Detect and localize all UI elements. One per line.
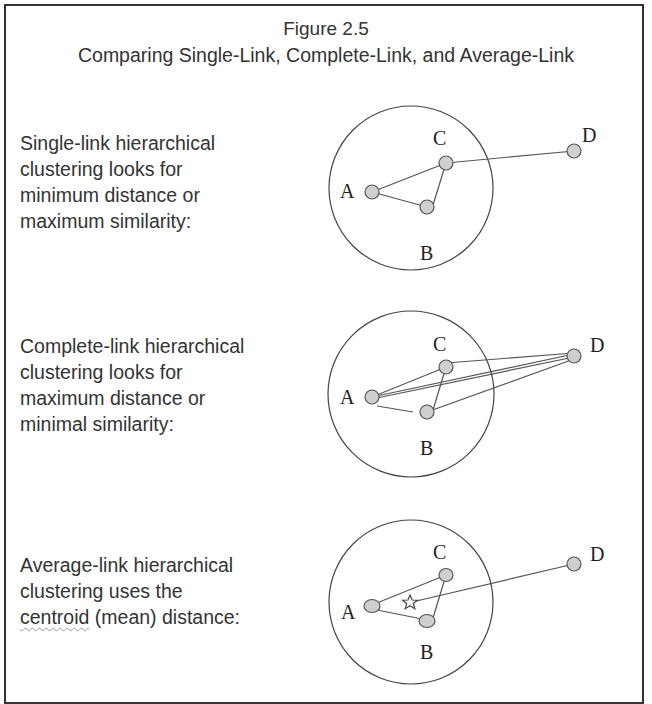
label-a: A [340,386,355,408]
figure-title: Comparing Single-Link, Complete-Link, an… [0,44,652,67]
desc-line: maximum distance or [20,385,320,411]
label-a: A [341,601,356,623]
label-a: A [340,180,355,202]
point-c [439,569,453,582]
point-d [567,557,581,571]
average-link-description: Average-link hierarchical clustering use… [20,552,320,630]
desc-line: Single-link hierarchical [20,130,320,156]
average-link-diagram: A B C D [320,505,652,695]
spellcheck-underlined-word: centroid [20,606,89,628]
point-c [439,156,453,170]
point-b [420,405,434,419]
desc-line: Average-link hierarchical [20,552,320,578]
point-b [419,615,435,628]
single-link-diagram: A B C D [320,90,652,290]
point-c [439,360,453,374]
point-d [567,144,581,158]
desc-line: maximum similarity: [20,208,320,234]
desc-line: Complete-link hierarchical [20,333,320,359]
point-a [365,390,379,404]
desc-line: clustering uses the [20,578,320,604]
label-b: B [420,242,433,264]
label-c: C [433,541,446,563]
point-b [420,200,434,214]
complete-link-description: Complete-link hierarchical clustering lo… [20,333,320,437]
point-d [567,349,581,363]
label-b: B [420,641,433,663]
desc-line: centroid (mean) distance: [20,604,320,630]
label-d: D [582,124,596,146]
point-a [364,600,380,613]
label-d: D [590,334,604,356]
label-b: B [420,437,433,459]
label-c: C [433,333,446,355]
label-d: D [590,543,604,565]
desc-line-rest: (mean) distance: [89,606,240,628]
single-link-description: Single-link hierarchical clustering look… [20,130,320,234]
desc-line: minimal similarity: [20,411,320,437]
desc-line: clustering looks for [20,156,320,182]
desc-line: minimum distance or [20,182,320,208]
desc-line: clustering looks for [20,359,320,385]
point-a [365,185,379,199]
label-c: C [433,127,446,149]
figure-number: Figure 2.5 [0,18,652,40]
complete-link-diagram: A B C D [320,300,652,485]
centroid-star-icon [403,595,418,609]
